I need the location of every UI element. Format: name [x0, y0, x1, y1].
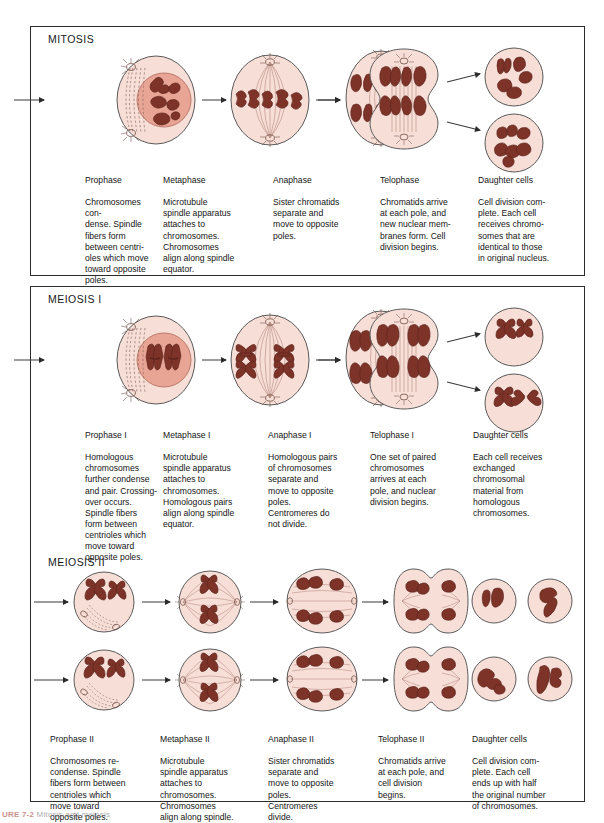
stage-name: Metaphase [163, 175, 249, 186]
stage-name: Telophase [380, 175, 466, 186]
stage-text: Homologous chromosomes further condense … [85, 452, 157, 562]
caption-meiosis1-prophase: Prophase I Homologous chromosomes furthe… [85, 419, 159, 563]
section-title-meiosis-i: MEIOSIS I [48, 293, 102, 305]
stage-name: Metaphase I [163, 430, 251, 441]
stage-name: Anaphase I [268, 430, 354, 441]
stage-name: Anaphase II [268, 734, 352, 745]
stage-text: Sister chromatids separate and move to o… [268, 756, 334, 821]
cell-meiosis2-daughter-r2-b [526, 655, 574, 703]
section-title-mitosis: MITOSIS [48, 33, 94, 45]
arrow-meiosis2-r1-3 [362, 598, 388, 606]
cell-meiosis2-prophase-r1 [72, 570, 136, 634]
stage-text: Cell division com- plete. Each cell ends… [472, 756, 546, 810]
cell-meiosis2-anaphase-r1 [284, 566, 360, 636]
stage-text: Microtubule spindle apparatus attaches t… [163, 452, 234, 529]
cell-meiosis2-telophase-r2 [392, 644, 470, 714]
cell-mitosis-metaphase [228, 52, 312, 148]
stage-text: Chromatids arrive at each pole, and cell… [378, 756, 446, 799]
arrow-meiosis2-r1-2 [250, 598, 278, 606]
caption-meiosis1-metaphase: Metaphase I Microtubule spindle apparatu… [163, 419, 251, 530]
entry-arrow-meiosis2-row2 [34, 676, 68, 684]
cell-meiosis1-daughter-1 [483, 306, 545, 368]
stage-text: Chromosomes con- dense. Spindle fibers f… [85, 197, 149, 285]
stage-name: Daughter cells [473, 430, 565, 441]
arrow-meiosis2-r1-1 [142, 598, 170, 606]
arrow-mitosis-3 [318, 96, 340, 104]
caption-mitosis-anaphase: Anaphase Sister chromatids separate and … [273, 164, 355, 242]
entry-arrow-meiosis [14, 356, 44, 364]
arrow-meiosis2-r2-1 [142, 676, 170, 684]
stage-text: Chromatids arrive at each pole, and new … [380, 197, 451, 251]
entry-arrow-mitosis [14, 96, 44, 104]
stage-name: Daughter cells [478, 175, 566, 186]
cell-meiosis1-telophase [362, 306, 446, 412]
figure-number: URE 7-2 [2, 810, 34, 819]
stage-text: Microtubule spindle apparatus attaches t… [160, 756, 234, 821]
arrow-meiosis1-3 [318, 356, 340, 364]
cell-meiosis2-daughter-r1-a [470, 577, 518, 625]
stage-name: Telophase II [378, 734, 464, 745]
stage-name: Metaphase II [160, 734, 248, 745]
cell-meiosis2-metaphase-r1 [176, 568, 244, 636]
caption-mitosis-telophase: Telophase Chromatids arrive at each pole… [380, 164, 466, 253]
stage-name: Prophase [85, 175, 155, 186]
caption-meiosis2-anaphase: Anaphase II Sister chromatids separate a… [268, 723, 352, 823]
cell-meiosis2-metaphase-r2 [176, 646, 244, 714]
caption-mitosis-daughter: Daughter cells Cell division com- plete.… [478, 164, 566, 264]
cell-meiosis2-anaphase-r2 [284, 644, 360, 714]
caption-mitosis-prophase: Prophase Chromosomes con- dense. Spindle… [85, 164, 155, 286]
section-title-meiosis-ii: MEIOSIS II [48, 556, 105, 568]
caption-meiosis2-telophase: Telophase II Chromatids arrive at each p… [378, 723, 464, 801]
stage-text: Homologous pairs of chromosomes separate… [268, 452, 337, 529]
cell-meiosis1-metaphase [228, 312, 312, 408]
stage-text: Cell division com- plete. Each cell rece… [478, 197, 549, 262]
stage-text: One set of paired chromosomes arrives at… [370, 452, 436, 506]
cell-meiosis2-daughter-r1-b [526, 577, 574, 625]
figure-caption: URE 7-2 Mitosis and meiosis [2, 810, 110, 819]
arrow-meiosis2-r2-2 [250, 676, 278, 684]
stage-name: Anaphase [273, 175, 355, 186]
caption-meiosis2-metaphase: Metaphase II Microtubule spindle apparat… [160, 723, 248, 823]
cell-meiosis1-prophase [114, 314, 198, 406]
caption-meiosis1-telophase: Telophase I One set of paired chromosome… [370, 419, 458, 508]
stage-name: Telophase I [370, 430, 458, 441]
caption-meiosis2-prophase: Prophase II Chromosomes re- condense. Sp… [50, 723, 132, 823]
caption-mitosis-metaphase: Metaphase Microtubule spindle apparatus … [163, 164, 249, 275]
stage-name: Prophase II [50, 734, 132, 745]
cell-meiosis2-telophase-r1 [392, 566, 470, 636]
arrow-mitosis-1 [202, 96, 226, 104]
stage-name: Prophase I [85, 430, 159, 441]
caption-meiosis1-anaphase: Anaphase I Homologous pairs of chromosom… [268, 419, 354, 530]
figure-caption-text: Mitosis and meiosis [37, 810, 111, 819]
cell-mitosis-prophase [114, 54, 198, 146]
stage-text: Microtubule spindle apparatus attaches t… [163, 197, 234, 274]
cell-meiosis2-prophase-r2 [72, 648, 136, 712]
caption-meiosis1-daughter: Daughter cells Each cell receives exchan… [473, 419, 565, 519]
stage-name: Daughter cells [472, 734, 564, 745]
arrow-meiosis1-1 [202, 356, 226, 364]
cell-mitosis-daughter-1 [483, 46, 545, 108]
cell-meiosis2-daughter-r2-a [470, 655, 518, 703]
entry-arrow-meiosis2-row1 [34, 598, 68, 606]
arrow-meiosis2-r2-3 [362, 676, 388, 684]
stage-text: Sister chromatids separate and move to o… [273, 197, 339, 240]
caption-meiosis2-daughter: Daughter cells Cell division com- plete.… [472, 723, 564, 812]
stage-text: Each cell receives exchanged chromosomal… [473, 452, 542, 517]
cell-mitosis-telophase [362, 46, 446, 152]
